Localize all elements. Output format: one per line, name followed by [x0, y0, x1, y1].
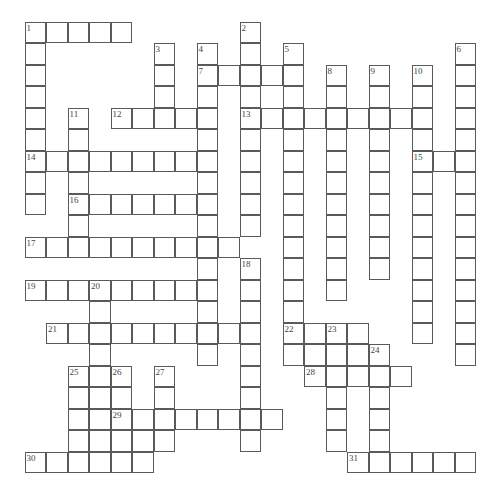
- crossword-cell[interactable]: [455, 151, 477, 173]
- crossword-cell[interactable]: [326, 430, 348, 452]
- crossword-cell[interactable]: [455, 108, 477, 130]
- crossword-cell[interactable]: [390, 452, 412, 474]
- crossword-cell[interactable]: [197, 129, 219, 151]
- crossword-cell[interactable]: [175, 194, 197, 216]
- crossword-cell[interactable]: [68, 237, 90, 259]
- crossword-cell[interactable]: 27: [154, 366, 176, 388]
- crossword-cell[interactable]: [25, 108, 47, 130]
- crossword-cell[interactable]: [25, 172, 47, 194]
- crossword-cell[interactable]: [154, 237, 176, 259]
- crossword-cell[interactable]: [455, 172, 477, 194]
- crossword-cell[interactable]: [412, 323, 434, 345]
- crossword-cell[interactable]: [89, 430, 111, 452]
- crossword-cell[interactable]: [68, 22, 90, 44]
- crossword-cell[interactable]: [240, 43, 262, 65]
- crossword-cell[interactable]: [132, 151, 154, 173]
- crossword-cell[interactable]: 17: [25, 237, 47, 259]
- crossword-cell[interactable]: 2: [240, 22, 262, 44]
- crossword-cell[interactable]: [89, 22, 111, 44]
- crossword-cell[interactable]: [433, 151, 455, 173]
- crossword-cell[interactable]: 29: [111, 409, 133, 431]
- crossword-cell[interactable]: [369, 172, 391, 194]
- crossword-cell[interactable]: [326, 86, 348, 108]
- crossword-cell[interactable]: [89, 409, 111, 431]
- crossword-cell[interactable]: [240, 387, 262, 409]
- crossword-cell[interactable]: [197, 280, 219, 302]
- crossword-cell[interactable]: [326, 387, 348, 409]
- crossword-cell[interactable]: [89, 387, 111, 409]
- crossword-cell[interactable]: [369, 409, 391, 431]
- crossword-cell[interactable]: [369, 237, 391, 259]
- crossword-cell[interactable]: [111, 194, 133, 216]
- crossword-cell[interactable]: [240, 344, 262, 366]
- crossword-cell[interactable]: [369, 366, 391, 388]
- crossword-cell[interactable]: [154, 387, 176, 409]
- crossword-cell[interactable]: [25, 86, 47, 108]
- crossword-cell[interactable]: [197, 194, 219, 216]
- crossword-cell[interactable]: [197, 301, 219, 323]
- crossword-cell[interactable]: 19: [25, 280, 47, 302]
- crossword-cell[interactable]: [25, 129, 47, 151]
- crossword-cell[interactable]: [111, 452, 133, 474]
- crossword-cell[interactable]: [455, 86, 477, 108]
- crossword-cell[interactable]: [218, 409, 240, 431]
- crossword-cell[interactable]: [283, 344, 305, 366]
- crossword-cell[interactable]: [197, 172, 219, 194]
- crossword-cell[interactable]: [111, 430, 133, 452]
- crossword-cell[interactable]: [197, 323, 219, 345]
- crossword-cell[interactable]: [283, 237, 305, 259]
- crossword-cell[interactable]: [304, 344, 326, 366]
- crossword-cell[interactable]: [412, 215, 434, 237]
- crossword-cell[interactable]: [111, 387, 133, 409]
- crossword-cell[interactable]: 31: [347, 452, 369, 474]
- crossword-cell[interactable]: [154, 151, 176, 173]
- crossword-cell[interactable]: [455, 323, 477, 345]
- crossword-cell[interactable]: 18: [240, 258, 262, 280]
- crossword-cell[interactable]: 25: [68, 366, 90, 388]
- crossword-cell[interactable]: [111, 323, 133, 345]
- crossword-cell[interactable]: [369, 258, 391, 280]
- crossword-cell[interactable]: 11: [68, 108, 90, 130]
- crossword-cell[interactable]: [455, 194, 477, 216]
- crossword-cell[interactable]: [46, 151, 68, 173]
- crossword-cell[interactable]: [240, 409, 262, 431]
- crossword-cell[interactable]: [46, 452, 68, 474]
- crossword-cell[interactable]: [68, 409, 90, 431]
- crossword-cell[interactable]: [326, 194, 348, 216]
- crossword-cell[interactable]: [154, 409, 176, 431]
- crossword-cell[interactable]: [326, 280, 348, 302]
- crossword-cell[interactable]: [68, 452, 90, 474]
- crossword-cell[interactable]: 1: [25, 22, 47, 44]
- crossword-cell[interactable]: [132, 108, 154, 130]
- crossword-cell[interactable]: [326, 237, 348, 259]
- crossword-cell[interactable]: [25, 43, 47, 65]
- crossword-cell[interactable]: [218, 323, 240, 345]
- crossword-cell[interactable]: [283, 86, 305, 108]
- crossword-cell[interactable]: 8: [326, 65, 348, 87]
- crossword-cell[interactable]: [240, 280, 262, 302]
- crossword-cell[interactable]: [240, 151, 262, 173]
- crossword-cell[interactable]: [240, 215, 262, 237]
- crossword-cell[interactable]: [369, 86, 391, 108]
- crossword-cell[interactable]: [132, 194, 154, 216]
- crossword-cell[interactable]: [412, 258, 434, 280]
- crossword-cell[interactable]: 22: [283, 323, 305, 345]
- crossword-cell[interactable]: [283, 65, 305, 87]
- crossword-cell[interactable]: [175, 323, 197, 345]
- crossword-cell[interactable]: [197, 409, 219, 431]
- crossword-cell[interactable]: [132, 409, 154, 431]
- crossword-cell[interactable]: [89, 151, 111, 173]
- crossword-cell[interactable]: 28: [304, 366, 326, 388]
- crossword-cell[interactable]: [326, 108, 348, 130]
- crossword-cell[interactable]: 30: [25, 452, 47, 474]
- crossword-cell[interactable]: 13: [240, 108, 262, 130]
- crossword-cell[interactable]: [240, 172, 262, 194]
- crossword-cell[interactable]: [261, 409, 283, 431]
- crossword-cell[interactable]: 6: [455, 43, 477, 65]
- crossword-cell[interactable]: 3: [154, 43, 176, 65]
- crossword-cell[interactable]: 12: [111, 108, 133, 130]
- crossword-cell[interactable]: [154, 323, 176, 345]
- crossword-cell[interactable]: [46, 237, 68, 259]
- crossword-cell[interactable]: [283, 108, 305, 130]
- crossword-cell[interactable]: [89, 366, 111, 388]
